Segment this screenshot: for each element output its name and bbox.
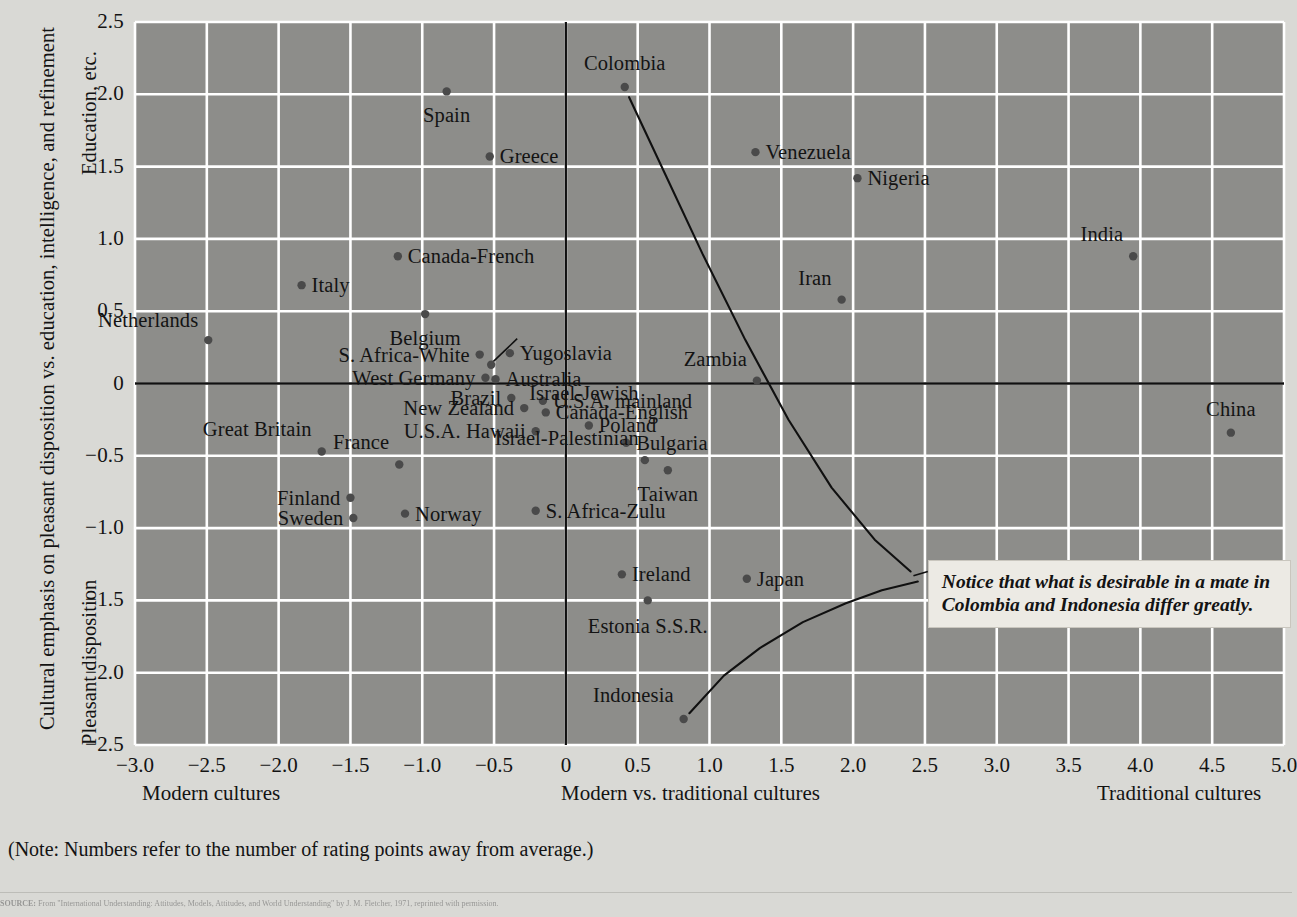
x-axis-left-label: Modern cultures [142,781,280,806]
point-label: Estonia S.S.R. [588,616,708,637]
data-point [621,83,629,91]
point-label: Taiwan [638,484,699,505]
data-point [753,376,761,384]
x-tick-label: 1.0 [696,753,722,778]
data-point [641,456,649,464]
x-tick-label: −0.5 [475,753,513,778]
y-axis-title-full: Cultural emphasis on pleasant dispositio… [36,27,59,730]
data-point [520,404,528,412]
x-tick-label: 0 [561,753,572,778]
data-point [476,350,484,358]
point-label: Norway [415,503,482,524]
x-tick-label: 2.0 [840,753,866,778]
data-point [506,349,514,357]
scatter-plot-area: NetherlandsGreat BritainItalySpainGreece… [135,22,1284,745]
point-label: France [333,432,389,453]
data-point [664,466,672,474]
x-axis-title: Modern vs. traditional cultures [561,781,820,806]
point-label: Nigeria [867,168,929,189]
y-tick-label: 2.5 [68,9,124,34]
x-tick-label: 1.5 [768,753,794,778]
data-point [442,87,450,95]
data-point [491,375,499,383]
y-tick-label: −1.5 [68,587,124,612]
y-tick-label: −1.0 [68,515,124,540]
x-tick-label: −1.5 [331,753,369,778]
x-tick-label: 5.0 [1271,753,1297,778]
point-label: New Zealand [403,398,514,419]
data-point [401,509,409,517]
point-label: Greece [500,146,559,167]
data-point [481,374,489,382]
data-point [743,575,751,583]
point-label: S. Africa-White [338,344,469,365]
x-tick-label: −1.0 [403,753,441,778]
x-tick-label: 4.5 [1199,753,1225,778]
point-label: India [1081,224,1124,245]
data-point [346,494,354,502]
data-point [532,507,540,515]
point-label: Netherlands [98,310,198,331]
figure-source: SOURCE: From "International Understandin… [0,899,1292,908]
figure-note: (Note: Numbers refer to the number of ra… [8,838,593,861]
data-point [204,336,212,344]
x-tick-label: 4.0 [1127,753,1153,778]
data-point [644,596,652,604]
data-point [679,715,687,723]
data-point [853,174,861,182]
point-label: Venezuela [765,142,850,163]
data-point [486,152,494,160]
y-tick-label: −0.5 [68,443,124,468]
point-label: Canada-French [408,246,535,267]
data-point [395,460,403,468]
point-label: Italy [312,275,350,296]
x-tick-label: 2.5 [912,753,938,778]
point-label: Yugoslavia [520,343,612,364]
data-point [1227,428,1235,436]
point-label: Japan [757,568,804,589]
x-tick-label: 3.5 [1055,753,1081,778]
point-label: Ireland [632,564,691,585]
data-point [349,514,357,522]
y-tick-label: 2.0 [68,81,124,106]
point-label: Sweden [278,508,344,529]
data-point [318,447,326,455]
x-tick-label: −3.0 [116,753,154,778]
point-label: West Germany [352,367,475,388]
callout-annotation: Notice that what is desirable in a mate … [928,560,1291,628]
data-point [618,570,626,578]
point-label: Spain [423,105,470,126]
source-text: From "International Understanding: Attit… [38,899,498,908]
footer-divider [0,892,1292,893]
point-label: Israel-Palestinian [495,428,639,449]
x-tick-label: −2.0 [260,753,298,778]
y-tick-label: 1.5 [68,154,124,179]
point-label: China [1206,398,1255,419]
data-point [1129,252,1137,260]
point-label: Great Britain [203,419,312,440]
data-point [421,310,429,318]
data-point [751,148,759,156]
point-label: Australia [505,369,581,390]
point-label: Bulgaria [636,433,707,454]
point-label: Finland [277,487,340,508]
y-tick-label: −2.0 [68,660,124,685]
y-tick-label: 0 [68,371,124,396]
data-point [394,252,402,260]
y-tick-label: 1.0 [68,226,124,251]
point-label: Colombia [584,53,666,74]
point-label: Zambia [684,348,747,369]
x-tick-label: 3.0 [984,753,1010,778]
data-point [837,295,845,303]
x-tick-label: 0.5 [625,753,651,778]
point-label: Iran [798,267,831,288]
source-label: SOURCE: [0,899,36,908]
point-label: Indonesia [593,685,674,706]
x-tick-label: −2.5 [188,753,226,778]
data-point [297,281,305,289]
data-point [487,361,495,369]
data-point [542,408,550,416]
x-axis-right-label: Traditional cultures [1097,781,1261,806]
data-points [135,22,1284,745]
